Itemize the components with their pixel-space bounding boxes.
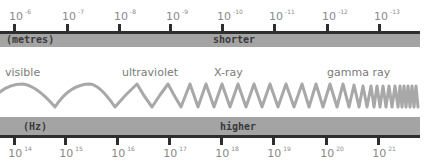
frequency-bar — [0, 117, 420, 136]
frequency-tick — [377, 137, 380, 145]
frequency-tick-label: 1017 — [163, 145, 187, 160]
frequency-bar-line — [0, 135, 420, 138]
frequency-tick-label: 1014 — [8, 145, 32, 160]
frequency-tick — [13, 137, 16, 145]
frequency-tick — [272, 137, 275, 145]
frequency-tick — [168, 137, 171, 145]
frequency-tick-label: 1020 — [320, 145, 344, 160]
frequency-tick-label: 1016 — [111, 145, 135, 160]
frequency-tick — [116, 137, 119, 145]
frequency-tick-label: 1018 — [215, 145, 239, 160]
frequency-tick — [325, 137, 328, 145]
frequency-tick — [220, 137, 223, 145]
frequency-tick-label: 1021 — [372, 145, 396, 160]
frequency-tick-label: 1015 — [59, 145, 83, 160]
frequency-tick-label: 1019 — [267, 145, 291, 160]
frequency-tick — [64, 137, 67, 145]
frequency-unit-label: (Hz) — [23, 121, 47, 132]
frequency-direction-label: higher — [220, 121, 256, 132]
